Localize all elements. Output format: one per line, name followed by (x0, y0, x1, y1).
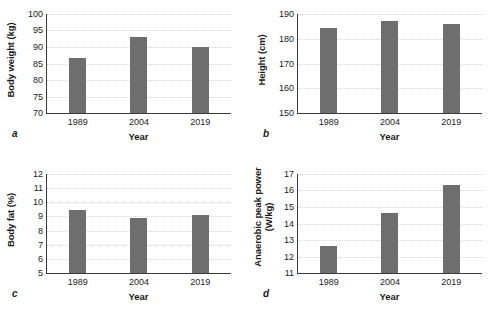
panel-d-x-tick-label: 2019 (441, 277, 461, 287)
panel-c: Body fat (%)12111098765198920042019Yearc (0, 160, 251, 320)
panel-c-x-tick-label: 2019 (190, 277, 210, 287)
panel-b-bar-2004 (381, 21, 398, 113)
panel-d-bar-slot: 2019 (421, 174, 482, 273)
panel-a-x-tick-label: 1989 (68, 117, 88, 127)
panel-b-x-tick-label: 2004 (380, 117, 400, 127)
panel-c-y-tick-label: 11 (3, 183, 43, 193)
panel-a-y-tick-label: 85 (3, 59, 43, 69)
panel-b-bar-1989 (320, 28, 337, 113)
panel-letter-a: a (12, 128, 18, 139)
panel-c-y-tick-label: 10 (3, 197, 43, 207)
panel-b-x-axis-title: Year (297, 131, 482, 142)
panel-a-plot-area: 100959085807570198920042019 (46, 14, 231, 114)
panel-c-y-tick-label: 12 (3, 169, 43, 179)
panel-d-y-tick-label: 12 (254, 252, 294, 262)
panel-a: Body weight (kg)100959085807570198920042… (0, 0, 251, 160)
panel-b: Height (cm)190180170160150198920042019Ye… (251, 0, 502, 160)
panel-c-x-tick-label: 2004 (129, 277, 149, 287)
panel-a-bar-group: 198920042019 (47, 14, 231, 113)
panel-b-bar-slot: 2004 (359, 14, 420, 113)
panel-c-y-tick-label: 7 (3, 240, 43, 250)
panel-c-bar-group: 198920042019 (47, 174, 231, 273)
panel-b-y-tick-label: 160 (254, 83, 294, 93)
panel-b-bar-group: 198920042019 (298, 14, 482, 113)
panel-a-bar-2019 (192, 47, 209, 113)
panel-a-bar-1989 (69, 58, 86, 113)
panel-b-bar-slot: 2019 (421, 14, 482, 113)
panel-c-x-tick-label: 1989 (68, 277, 88, 287)
panel-a-y-tick-label: 70 (3, 108, 43, 118)
panel-b-bar-2019 (443, 24, 460, 113)
panel-d: Anaerobic peak power (W/kg)1716151413121… (251, 160, 502, 320)
panel-d-y-tick-label: 14 (254, 219, 294, 229)
panel-d-y-tick-label: 13 (254, 235, 294, 245)
panel-d-bar-2004 (381, 213, 398, 273)
panel-c-bar-slot: 2019 (170, 174, 231, 273)
panel-d-bar-1989 (320, 246, 337, 273)
panel-a-y-tick-label: 75 (3, 92, 43, 102)
panel-b-bar-slot: 1989 (298, 14, 359, 113)
panel-d-y-tick-label: 11 (254, 268, 294, 278)
panel-a-y-tick-label: 100 (3, 9, 43, 19)
panel-letter-d: d (263, 288, 269, 299)
panel-c-bar-slot: 1989 (47, 174, 108, 273)
panel-c-bar-2019 (192, 215, 209, 273)
figure-multi-panel-bar-charts: Body weight (kg)100959085807570198920042… (0, 0, 502, 320)
panel-a-bar-slot: 2019 (170, 14, 231, 113)
panel-c-y-tick-label: 8 (3, 226, 43, 236)
panel-a-y-tick-label: 80 (3, 75, 43, 85)
panel-b-y-tick-label: 180 (254, 34, 294, 44)
panel-a-x-tick-label: 2004 (129, 117, 149, 127)
panel-c-y-tick-label: 5 (3, 268, 43, 278)
panel-c-plot-area: 12111098765198920042019 (46, 174, 231, 274)
panel-d-x-axis-title: Year (297, 291, 482, 302)
panel-a-bar-2004 (130, 37, 147, 113)
panel-b-plot-area: 190180170160150198920042019 (297, 14, 482, 114)
panel-c-x-axis-title: Year (46, 291, 231, 302)
panel-d-bar-slot: 1989 (298, 174, 359, 273)
panel-d-bar-2019 (443, 185, 460, 273)
panel-a-y-tick-label: 95 (3, 25, 43, 35)
panel-d-bar-slot: 2004 (359, 174, 420, 273)
panel-b-y-tick-label: 150 (254, 108, 294, 118)
panel-c-bar-2004 (130, 218, 147, 273)
panel-c-bar-slot: 2004 (108, 174, 169, 273)
panel-b-y-tick-label: 190 (254, 9, 294, 19)
panel-d-x-tick-label: 2004 (380, 277, 400, 287)
panel-d-plot-area: 17161514131211198920042019 (297, 174, 482, 274)
panel-a-bar-slot: 2004 (108, 14, 169, 113)
panel-d-x-tick-label: 1989 (319, 277, 339, 287)
panel-a-bar-slot: 1989 (47, 14, 108, 113)
panel-b-y-tick-label: 170 (254, 59, 294, 69)
panel-d-y-tick-label: 17 (254, 169, 294, 179)
panel-d-bar-group: 198920042019 (298, 174, 482, 273)
panel-a-y-tick-label: 90 (3, 42, 43, 52)
panel-b-x-tick-label: 2019 (441, 117, 461, 127)
panel-letter-b: b (263, 128, 269, 139)
panel-c-bar-1989 (69, 210, 86, 273)
panel-a-x-axis-title: Year (46, 131, 231, 142)
panel-letter-c: c (12, 288, 18, 299)
panel-c-y-tick-label: 9 (3, 211, 43, 221)
panel-d-y-tick-label: 15 (254, 202, 294, 212)
panel-b-x-tick-label: 1989 (319, 117, 339, 127)
panel-c-y-tick-label: 6 (3, 254, 43, 264)
panel-d-y-tick-label: 16 (254, 185, 294, 195)
panel-a-x-tick-label: 2019 (190, 117, 210, 127)
